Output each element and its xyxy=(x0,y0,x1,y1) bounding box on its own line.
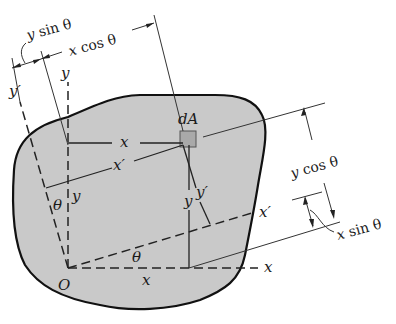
area-region xyxy=(13,95,265,309)
origin-label: O xyxy=(58,276,70,294)
y-sin-theta-label: y sin θ xyxy=(24,16,73,44)
y-right-distance-label: y xyxy=(183,192,193,210)
y-prime-axis-label: y′ xyxy=(8,82,21,100)
arrow-head xyxy=(33,59,41,64)
arrow-head xyxy=(146,23,154,28)
x-distance-label: x xyxy=(120,133,129,151)
angle-bottom-label: θ xyxy=(132,248,141,266)
y-prime-distance-label: y′ xyxy=(195,183,208,201)
diagram-stage: O x y x′ y′ dA θ θ x x x′ y y y′ y sin θ… xyxy=(0,0,396,324)
x-cos-theta-label: x cos θ xyxy=(67,31,118,59)
y-sin-theta-leader xyxy=(21,43,26,63)
arrow-head xyxy=(309,219,314,228)
x-prime-axis-label: x′ xyxy=(259,203,271,221)
y-left-distance-label: y xyxy=(71,187,81,205)
x-prime-extension xyxy=(292,192,322,200)
x-bottom-label: x xyxy=(142,271,151,289)
x-axis-label: x xyxy=(264,258,273,276)
x-sin-theta-label: x sin θ xyxy=(335,216,383,243)
arrow-head xyxy=(330,210,335,219)
y-cos-theta-label: y cos θ xyxy=(288,153,340,181)
y-axis-label: y xyxy=(60,64,70,82)
angle-top-label: θ xyxy=(53,196,62,214)
y-cos-theta-dim-top xyxy=(305,112,312,140)
x-prime-distance-label: x′ xyxy=(113,156,125,174)
da-label: dA xyxy=(178,110,199,128)
axis-rotation-diagram: O x y x′ y′ dA θ θ x x x′ y y y′ y sin θ… xyxy=(0,0,396,324)
